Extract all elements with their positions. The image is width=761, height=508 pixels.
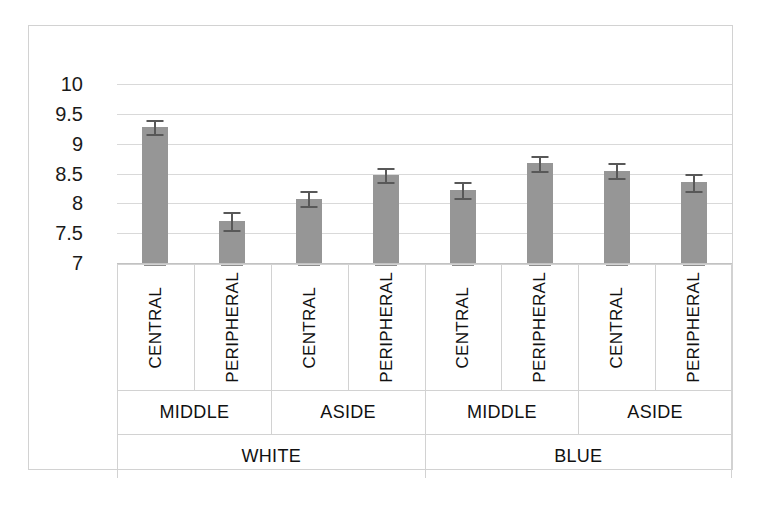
- bar-group: [578, 84, 655, 263]
- colour-label-cell: BLUE: [425, 434, 733, 478]
- y-axis-tick-label: 7: [29, 253, 83, 273]
- colour-label-cell-text: BLUE: [554, 446, 602, 467]
- category-row-colour: WHITEBLUE: [117, 434, 732, 478]
- region-label-cell: PERIPHERAL: [348, 264, 425, 390]
- bar-group: [425, 84, 502, 263]
- position-label-cell-text: MIDDLE: [467, 402, 537, 423]
- error-bar-line: [385, 168, 387, 182]
- error-bar-cap-lower: [454, 198, 471, 200]
- region-label-cell: PERIPHERAL: [194, 264, 271, 390]
- bar: [373, 175, 399, 263]
- chart-figure-frame: 109.598.587.57 CENTRALPERIPHERALCENTRALP…: [28, 25, 733, 470]
- error-bar-cap-lower: [301, 206, 318, 208]
- position-label-cell: ASIDE: [578, 390, 732, 434]
- error-bar-cap-upper: [378, 168, 395, 170]
- bar-group: [117, 84, 194, 263]
- category-row-region: CENTRALPERIPHERALCENTRALPERIPHERALCENTRA…: [117, 264, 732, 390]
- error-bar-cap-upper: [454, 182, 471, 184]
- bar: [681, 182, 707, 263]
- bar: [450, 190, 476, 263]
- error-bar-line: [308, 191, 310, 207]
- bar: [142, 127, 168, 263]
- error-bar-line: [693, 174, 695, 191]
- region-label-cell-text: CENTRAL: [146, 287, 166, 368]
- region-label-cell: PERIPHERAL: [501, 264, 578, 390]
- region-label-cell-text: CENTRAL: [607, 287, 627, 368]
- bar-group: [655, 84, 732, 263]
- error-bar-line: [154, 120, 156, 134]
- bar-group: [501, 84, 578, 263]
- category-row-position: MIDDLEASIDEMIDDLEASIDE: [117, 390, 732, 434]
- bar: [604, 171, 630, 263]
- region-label-cell-text: PERIPHERAL: [684, 272, 704, 383]
- error-bar-cap-upper: [224, 212, 241, 214]
- region-label-cell-text: PERIPHERAL: [377, 272, 397, 383]
- position-label-cell: MIDDLE: [425, 390, 579, 434]
- error-bar-cap-upper: [608, 163, 625, 165]
- y-axis-tick-label: 8.5: [29, 164, 83, 184]
- y-axis-tick-label: 9.5: [29, 104, 83, 124]
- category-label-table: CENTRALPERIPHERALCENTRALPERIPHERALCENTRA…: [117, 264, 732, 472]
- region-label-cell: CENTRAL: [271, 264, 348, 390]
- error-bar-cap-lower: [147, 134, 164, 136]
- bar-group: [271, 84, 348, 263]
- error-bar-cap-lower: [531, 171, 548, 173]
- region-label-cell-text: PERIPHERAL: [530, 272, 550, 383]
- error-bar-cap-lower: [378, 182, 395, 184]
- region-label-cell: PERIPHERAL: [655, 264, 732, 390]
- error-bar-line: [616, 163, 618, 179]
- region-label-cell: CENTRAL: [425, 264, 502, 390]
- region-label-cell: CENTRAL: [578, 264, 655, 390]
- y-axis-tick-label: 10: [29, 74, 83, 94]
- error-bar-cap-upper: [685, 174, 702, 176]
- region-label-cell: CENTRAL: [117, 264, 194, 390]
- error-bar-cap-upper: [147, 120, 164, 122]
- error-bar-line: [231, 212, 233, 230]
- bar-group: [194, 84, 271, 263]
- plot-area: [117, 84, 732, 263]
- position-label-cell-text: ASIDE: [320, 402, 376, 423]
- bar-group: [348, 84, 425, 263]
- position-label-cell: ASIDE: [271, 390, 425, 434]
- position-label-cell-text: ASIDE: [627, 402, 683, 423]
- position-label-cell-text: MIDDLE: [159, 402, 229, 423]
- y-axis-tick-label: 8: [29, 193, 83, 213]
- error-bar-cap-upper: [301, 191, 318, 193]
- bar: [527, 163, 553, 263]
- region-label-cell-text: PERIPHERAL: [223, 272, 243, 383]
- error-bar-cap-lower: [685, 191, 702, 193]
- y-axis-tick-label: 9: [29, 134, 83, 154]
- colour-label-cell: WHITE: [117, 434, 425, 478]
- error-bar-cap-upper: [531, 156, 548, 158]
- region-label-cell-text: CENTRAL: [300, 287, 320, 368]
- region-label-cell-text: CENTRAL: [453, 287, 473, 368]
- y-axis-tick-label: 7.5: [29, 223, 83, 243]
- error-bar-cap-lower: [224, 230, 241, 232]
- error-bar-line: [539, 156, 541, 172]
- bar-series: [117, 84, 732, 263]
- colour-label-cell-text: WHITE: [242, 446, 302, 467]
- error-bar-cap-lower: [608, 178, 625, 180]
- error-bar-line: [462, 182, 464, 198]
- position-label-cell: MIDDLE: [117, 390, 271, 434]
